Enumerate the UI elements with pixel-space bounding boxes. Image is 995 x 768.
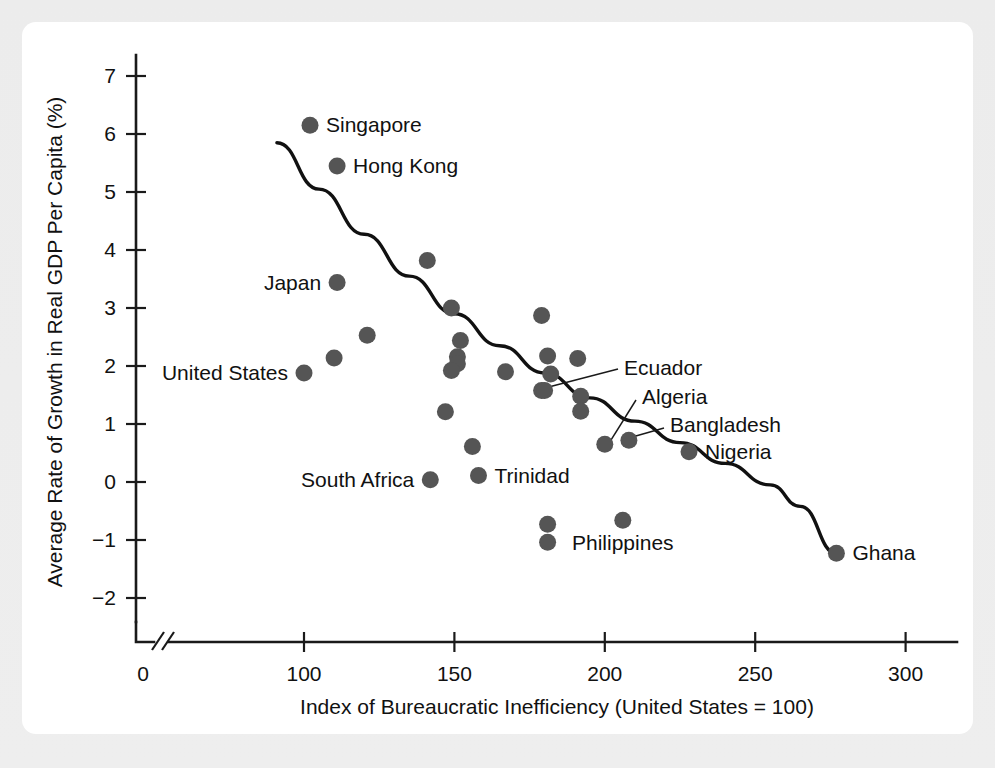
y-axis-title: Average Rate of Growth in Real GDP Per C…: [43, 97, 66, 588]
data-point: [614, 512, 631, 529]
y-tick-label: 4: [104, 238, 116, 261]
data-point: [419, 252, 436, 269]
point-label: Hong Kong: [353, 154, 458, 177]
data-point: [596, 436, 613, 453]
y-tick-label: 2: [104, 354, 116, 377]
fit-curve-group: [277, 143, 837, 554]
data-point: [422, 471, 439, 488]
point-label: Algeria: [642, 385, 708, 408]
y-tick-label: 1: [104, 412, 116, 435]
fit-curve: [277, 143, 837, 554]
data-point: [539, 534, 556, 551]
y-tick-label: 7: [104, 64, 116, 87]
data-point: [359, 327, 376, 344]
x-tick-label: 200: [587, 662, 622, 685]
y-tick-label: 6: [104, 122, 116, 145]
data-point: [536, 382, 553, 399]
point-label: United States: [162, 361, 288, 384]
data-point: [572, 388, 589, 405]
point-label: Japan: [264, 271, 321, 294]
data-point: [542, 366, 559, 383]
data-point: [452, 332, 469, 349]
data-point: [470, 467, 487, 484]
data-point: [533, 307, 550, 324]
point-label: Trinidad: [495, 464, 570, 487]
x-axis-title: Index of Bureaucratic Inefficiency (Unit…: [300, 695, 814, 718]
x-tick-group: 0100150200250300: [137, 632, 923, 685]
data-point: [539, 348, 556, 365]
y-tick-label: 5: [104, 180, 116, 203]
data-point: [326, 349, 343, 366]
data-point: [539, 516, 556, 533]
data-point: [681, 443, 698, 460]
scatter-plot: −2−101234567 0100150200250300 SingaporeH…: [22, 22, 973, 734]
x-tick-label: 250: [738, 662, 773, 685]
data-point: [329, 274, 346, 291]
point-label: Nigeria: [705, 440, 772, 463]
y-tick-label: −2: [92, 586, 116, 609]
point-label: Bangladesh: [670, 413, 781, 436]
data-point: [437, 403, 454, 420]
x-tick-label: 150: [437, 662, 472, 685]
data-point: [443, 362, 460, 379]
data-point: [572, 403, 589, 420]
data-point: [329, 157, 346, 174]
x-tick-label: 100: [286, 662, 321, 685]
data-point: [464, 438, 481, 455]
y-tick-group: −2−101234567: [92, 64, 146, 609]
figure-card: −2−101234567 0100150200250300 SingaporeH…: [22, 22, 973, 734]
data-point: [620, 432, 637, 449]
y-tick-label: −1: [92, 528, 116, 551]
data-point: [443, 300, 460, 317]
point-label: Singapore: [326, 113, 422, 136]
point-labels-group: SingaporeHong KongJapanUnited StatesSout…: [162, 113, 916, 564]
data-point: [296, 365, 313, 382]
point-label: South Africa: [301, 468, 415, 491]
point-label: Ecuador: [624, 356, 702, 379]
x-tick-label: 0: [137, 662, 149, 685]
data-points-group: [296, 117, 845, 562]
axis-corner: [136, 622, 154, 642]
x-tick-label: 300: [888, 662, 923, 685]
y-tick-label: 0: [104, 470, 116, 493]
data-point: [497, 363, 514, 380]
data-point: [569, 350, 586, 367]
data-point: [828, 545, 845, 562]
point-label: Philippines: [572, 531, 674, 554]
data-point: [302, 117, 319, 134]
y-tick-label: 3: [104, 296, 116, 319]
point-label: Ghana: [852, 541, 915, 564]
